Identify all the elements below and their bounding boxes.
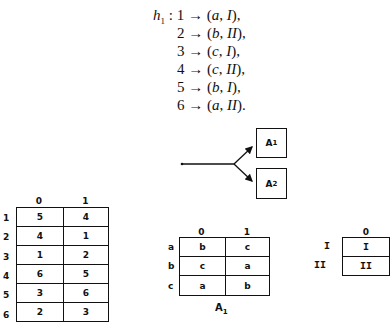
mapping-term: , <box>242 25 246 41</box>
table-a1-col-header-1: 1 <box>224 227 270 237</box>
table-row: II <box>343 257 390 276</box>
table-a2: I II <box>342 237 390 276</box>
mapping-output-roman: I <box>227 7 232 23</box>
table-cell: b <box>180 238 226 257</box>
mapping-term: , <box>241 61 245 77</box>
table-a1-caption: A1 <box>215 302 228 316</box>
mapping-line-2: 2 → (b, II), <box>177 24 246 42</box>
mapping-output-letter: a <box>212 7 220 23</box>
mapping-output-roman: I <box>226 43 231 59</box>
table-row: 6 5 <box>17 265 109 284</box>
table-row: b c <box>180 238 270 257</box>
box-a1: A1 <box>256 128 287 158</box>
mapping-input: 3 <box>177 43 185 59</box>
table-main: 5 4 4 1 1 2 6 5 3 6 2 3 <box>16 207 109 322</box>
table-cell: 1 <box>64 227 109 246</box>
table-cell: 6 <box>64 284 109 303</box>
table-cell: I <box>343 238 390 257</box>
table-cell: 2 <box>64 246 109 265</box>
mapping-input: 5 <box>177 79 185 95</box>
table-cell: 1 <box>17 246 64 265</box>
arrow-icon: → <box>188 79 203 95</box>
mapping-output-letter: c <box>212 43 219 59</box>
table-a1-row-header: b <box>168 261 174 271</box>
table-cell: 3 <box>64 303 109 322</box>
table-a1-row-header: c <box>168 281 173 291</box>
table-main-row-header: 6 <box>3 310 9 320</box>
table-cell: II <box>343 257 390 276</box>
mapping-output-roman: II <box>227 97 237 113</box>
table-a2-row-header: II <box>314 260 326 271</box>
table-cell: 5 <box>64 265 109 284</box>
table-row: I <box>343 238 390 257</box>
table-cell: c <box>180 257 226 276</box>
mapping-output-letter: b <box>212 79 220 95</box>
box-subscript: 2 <box>273 180 278 188</box>
box-label: A <box>266 179 273 189</box>
table-row: 3 6 <box>17 284 109 303</box>
mapping-input: 2 <box>177 25 185 41</box>
table-row: 2 3 <box>17 303 109 322</box>
table-main-row-header: 2 <box>3 232 9 242</box>
table-a1-row-header: a <box>168 242 174 252</box>
table-main-col-header-0: 0 <box>16 196 62 206</box>
table-main-row-header: 5 <box>3 290 9 300</box>
table-cell: 4 <box>17 227 64 246</box>
table-cell: b <box>226 276 270 296</box>
arrow-icon: → <box>188 43 203 59</box>
box-subscript: 1 <box>273 139 278 147</box>
table-main-row-header: 1 <box>3 213 9 223</box>
mapping-line-4: 4 → (c, II), <box>177 60 245 78</box>
mapping-term: , <box>236 43 240 59</box>
mapping-term: . <box>242 97 246 113</box>
table-cell: a <box>180 276 226 296</box>
caption-subscript: 1 <box>223 308 228 316</box>
mapping-output-roman: I <box>227 79 232 95</box>
table-row: 4 1 <box>17 227 109 246</box>
box-a2: A2 <box>256 168 287 199</box>
mapping-term: , <box>237 79 241 95</box>
table-row: c a <box>180 257 270 276</box>
table-main-col-header-1: 1 <box>62 196 109 206</box>
mapping-input: 6 <box>177 97 185 113</box>
table-a2-col-header-0: 0 <box>342 227 390 237</box>
mapping-colon: : <box>165 7 177 23</box>
branch-arrow-up-icon <box>234 147 252 164</box>
mapping-output-roman: II <box>226 61 236 77</box>
table-cell: 4 <box>64 208 109 227</box>
table-a1-col-header-0: 0 <box>179 227 224 237</box>
table-main-row-header: 3 <box>3 252 9 262</box>
table-a1: b c c a a b <box>179 237 270 296</box>
table-cell: 5 <box>17 208 64 227</box>
branch-arrow-down-icon <box>234 164 252 181</box>
arrow-icon: → <box>188 97 203 113</box>
table-cell: 3 <box>17 284 64 303</box>
mapping-line-3: 3 → (c, I), <box>177 42 240 60</box>
mapping-input: 4 <box>177 61 185 77</box>
caption-label: A <box>215 302 223 313</box>
table-main-row-header: 4 <box>3 271 9 281</box>
mapping-output-letter: b <box>212 25 220 41</box>
table-row: 5 4 <box>17 208 109 227</box>
arrow-icon: → <box>188 61 203 77</box>
mapping-term: , <box>237 7 241 23</box>
table-cell: 6 <box>17 265 64 284</box>
table-a2-row-header: I <box>324 241 330 252</box>
mapping-name: h <box>153 7 161 23</box>
branch-origin-dot <box>181 163 184 166</box>
table-row: a b <box>180 276 270 296</box>
table-cell: c <box>226 238 270 257</box>
box-label: A <box>266 138 273 148</box>
mapping-output-letter: a <box>212 97 220 113</box>
table-cell: 2 <box>17 303 64 322</box>
mapping-input: 1 <box>177 7 185 23</box>
table-row: 1 2 <box>17 246 109 265</box>
arrow-icon: → <box>188 7 203 23</box>
mapping-line-6: 6 → (a, II). <box>177 96 246 114</box>
table-cell: a <box>226 257 270 276</box>
arrow-icon: → <box>188 25 203 41</box>
mapping-output-roman: II <box>227 25 237 41</box>
mapping-output-letter: c <box>212 61 219 77</box>
mapping-line-5: 5 → (b, I), <box>177 78 241 96</box>
